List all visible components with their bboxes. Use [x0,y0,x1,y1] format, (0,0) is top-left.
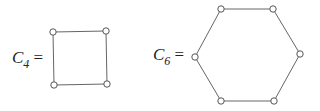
vertex [271,98,277,104]
edge [195,57,221,101]
cycle-graph-c6 [192,6,303,104]
edge [54,84,107,85]
vertex [104,81,110,87]
vertex [103,28,109,34]
edge [195,9,221,57]
edge [53,31,106,32]
vertex [270,6,276,12]
edge [53,32,54,85]
graph-diagram [0,0,320,111]
vertex [51,82,57,88]
vertex [218,6,224,12]
cycle-graph-c4 [50,28,110,88]
edge [273,9,300,54]
vertex [192,54,198,60]
vertex [50,29,56,35]
edge [274,54,300,101]
vertex [297,51,303,57]
edge [106,31,107,84]
vertex [218,98,224,104]
